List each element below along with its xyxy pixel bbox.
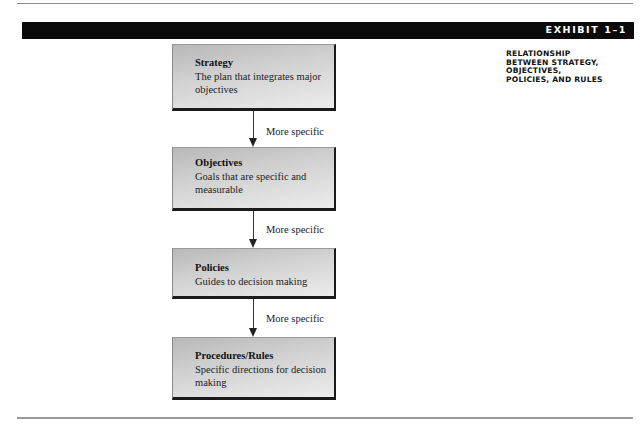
node-title: Procedures/Rules bbox=[195, 350, 273, 361]
caption-line: POLICIES, AND RULES bbox=[506, 76, 636, 85]
edge-line bbox=[253, 211, 254, 240]
node-objectives: Objectives Goals that are specific and m… bbox=[172, 147, 336, 211]
top-rule bbox=[17, 3, 633, 4]
edge-label: More specific bbox=[266, 224, 324, 235]
exhibit-caption: RELATIONSHIP BETWEEN STRATEGY, OBJECTIVE… bbox=[506, 50, 636, 84]
exhibit-header-bar: EXHIBIT 1–1 bbox=[22, 22, 634, 39]
edge-label: More specific bbox=[266, 313, 324, 324]
node-policies: Policies Guides to decision making bbox=[172, 248, 336, 299]
node-strategy: Strategy The plan that integrates major … bbox=[172, 44, 336, 111]
node-procedures-rules: Procedures/Rules Specific directions for… bbox=[172, 337, 336, 400]
edge-line bbox=[253, 111, 254, 139]
node-description: Goals that are specific and measurable bbox=[195, 170, 330, 196]
node-title: Objectives bbox=[195, 157, 242, 168]
exhibit-label: EXHIBIT 1–1 bbox=[546, 24, 627, 35]
edge-line bbox=[253, 299, 254, 329]
bottom-rule bbox=[17, 417, 633, 419]
node-description: Guides to decision making bbox=[195, 275, 330, 288]
arrow-down-icon bbox=[249, 239, 257, 248]
edge-label: More specific bbox=[266, 126, 324, 137]
arrow-down-icon bbox=[249, 328, 257, 337]
node-title: Policies bbox=[195, 262, 229, 273]
node-description: The plan that integrates major objective… bbox=[195, 70, 330, 96]
arrow-down-icon bbox=[249, 138, 257, 147]
node-description: Specific directions for decision making bbox=[195, 363, 330, 389]
node-title: Strategy bbox=[195, 57, 233, 68]
